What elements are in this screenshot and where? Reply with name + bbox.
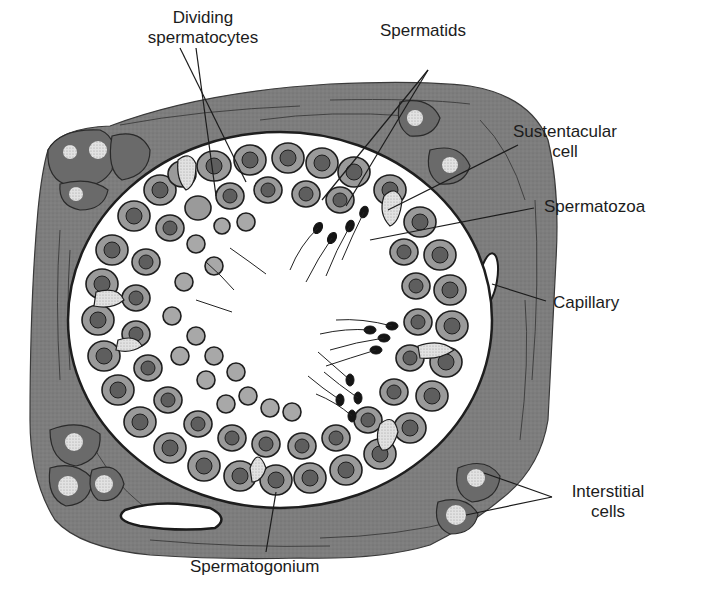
label-interstitial-cells: Interstitial cells [558, 482, 658, 522]
label-line: Spermatids [380, 21, 466, 41]
label-line: Interstitial [558, 482, 658, 502]
label-line: cells [558, 502, 658, 522]
label-line: Spermatozoa [544, 197, 645, 217]
label-line: spermatocytes [128, 28, 278, 48]
label-sustentacular-cell: Sustentacular cell [505, 122, 625, 162]
label-line: Dividing [128, 8, 278, 28]
tubule-diagram: Dividing spermatocytes Spermatids Susten… [0, 0, 701, 595]
label-spermatids: Spermatids [380, 21, 466, 41]
label-capillary: Capillary [553, 293, 619, 313]
label-spermatozoa: Spermatozoa [544, 197, 645, 217]
label-spermatogonium: Spermatogonium [190, 557, 319, 577]
capillary-bottom [121, 503, 222, 529]
label-dividing-spermatocytes: Dividing spermatocytes [128, 8, 278, 48]
label-line: Capillary [553, 293, 619, 313]
label-line: Sustentacular [505, 122, 625, 142]
label-line: Spermatogonium [190, 557, 319, 577]
label-line: cell [505, 142, 625, 162]
